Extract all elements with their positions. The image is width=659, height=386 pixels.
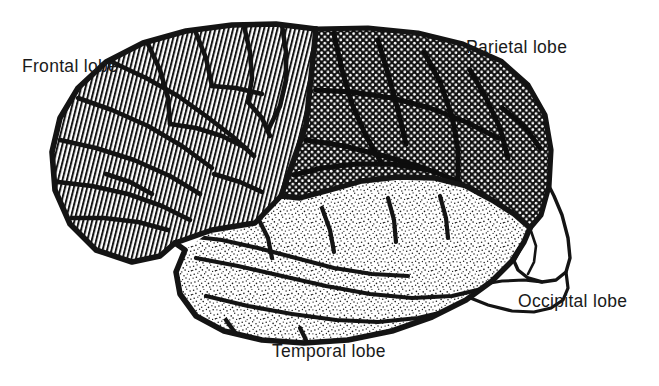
parietal-lobe-label: Parietal lobe [466, 39, 567, 57]
occipital-lobe-label: Occipital lobe [518, 293, 627, 311]
temporal-lobe-label: Temporal lobe [272, 343, 386, 361]
frontal-lobe-label: Frontal lobe [22, 58, 118, 76]
